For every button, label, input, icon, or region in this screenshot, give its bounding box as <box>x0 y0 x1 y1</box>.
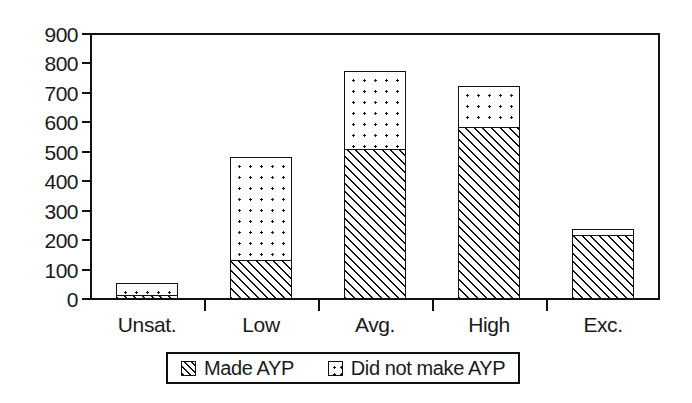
y-tick-label: 400 <box>44 171 78 192</box>
bar-avg <box>344 71 406 298</box>
y-tick-label: 600 <box>44 112 78 133</box>
x-tick-mark <box>204 300 206 311</box>
hatch-swatch-icon <box>181 361 196 376</box>
y-tick-label: 100 <box>44 259 78 280</box>
chart-legend: Made AYPDid not make AYP <box>166 352 520 384</box>
x-tick-label-exc: Exc. <box>583 313 622 337</box>
bar-segment-made-ayp <box>572 235 634 298</box>
bar-segment-did-not-make-ayp <box>344 71 406 149</box>
y-tick-label: 900 <box>44 24 78 45</box>
dots-swatch-icon <box>328 361 343 376</box>
x-tick-label-high: High <box>468 313 510 337</box>
x-tick-label-unsat: Unsat. <box>118 313 176 337</box>
x-tick-mark <box>432 300 434 311</box>
legend-item-made-ayp: Made AYP <box>181 358 294 378</box>
y-tick-label: 200 <box>44 230 78 251</box>
bar-segment-made-ayp <box>230 260 292 298</box>
x-axis-ticks <box>90 300 660 312</box>
x-tick-mark <box>546 300 548 311</box>
bar-segment-made-ayp <box>116 295 178 298</box>
bar-unsat <box>116 283 178 298</box>
bar-segment-did-not-make-ayp <box>116 283 178 295</box>
y-tick-label: 800 <box>44 53 78 74</box>
x-axis-labels: Unsat.LowAvg.HighExc. <box>90 313 660 343</box>
y-tick-label: 300 <box>44 200 78 221</box>
y-tick-label: 0 <box>67 289 78 310</box>
bar-high <box>458 86 520 298</box>
x-tick-mark <box>318 300 320 311</box>
bar-segment-made-ayp <box>458 127 520 298</box>
bar-exc <box>572 229 634 298</box>
x-tick-label-avg: Avg. <box>355 313 395 337</box>
bars-layer <box>92 35 658 298</box>
y-tick-label: 700 <box>44 82 78 103</box>
y-tick-label: 500 <box>44 141 78 162</box>
bar-segment-did-not-make-ayp <box>230 157 292 260</box>
legend-label: Did not make AYP <box>351 358 505 378</box>
bar-low <box>230 157 292 298</box>
plot-area <box>90 33 660 300</box>
x-tick-label-low: Low <box>242 313 279 337</box>
y-axis: 9008007006005004003002001000 <box>0 33 78 300</box>
bar-chart: 9008007006005004003002001000 Unsat.LowAv… <box>0 0 692 403</box>
legend-label: Made AYP <box>204 358 294 378</box>
legend-item-did-not-make-ayp: Did not make AYP <box>328 358 505 378</box>
bar-segment-made-ayp <box>344 149 406 298</box>
bar-segment-did-not-make-ayp <box>458 86 520 127</box>
